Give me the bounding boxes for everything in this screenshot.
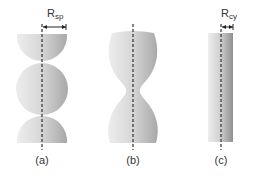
radius-symbol: R xyxy=(47,7,55,19)
panel-c-label: (c) xyxy=(206,154,236,166)
diagram-canvas xyxy=(0,0,255,178)
radius-symbol: R xyxy=(221,7,229,19)
panel-b-label: (b) xyxy=(118,154,148,166)
panel-a-label: (a) xyxy=(27,154,57,166)
panel-a-radius-arrow xyxy=(43,24,66,30)
panel-c-radius-arrow xyxy=(222,24,233,30)
radius-subscript: sp xyxy=(55,12,63,21)
radius-label-cylinder: Rcy xyxy=(221,7,237,21)
radius-subscript: cy xyxy=(229,12,237,21)
radius-label-sphere: Rsp xyxy=(47,7,63,21)
